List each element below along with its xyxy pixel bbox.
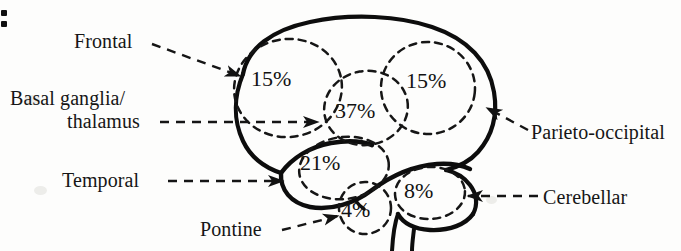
label-frontal: Frontal: [74, 31, 132, 52]
medulla-outline: [412, 229, 414, 251]
value-parieto-occipital: 15%: [406, 70, 446, 92]
brainstem-outline: [392, 214, 398, 251]
label-basal-ganglia-line1: Basal ganglia/: [10, 88, 125, 109]
label-basal-ganglia-line2: thalamus: [67, 111, 140, 132]
value-temporal: 21%: [300, 152, 340, 174]
leader-pontine: [282, 216, 338, 230]
value-basal-ganglia-thalamus: 37%: [335, 100, 375, 122]
label-parieto-occipital: Parieto-occipital: [531, 122, 665, 143]
cerebellum-outline: [398, 214, 473, 230]
leader-frontal: [152, 44, 240, 76]
figure-canvas: Frontal Basal ganglia/ thalamus Temporal…: [0, 0, 681, 251]
label-temporal: Temporal: [62, 170, 139, 191]
value-frontal: 15%: [251, 68, 291, 90]
occipital-border: [446, 170, 476, 214]
label-cerebellar: Cerebellar: [543, 187, 627, 208]
value-pontine: 4%: [341, 199, 370, 221]
label-pontine: Pontine: [200, 219, 262, 240]
value-cerebellar: 8%: [404, 180, 433, 202]
